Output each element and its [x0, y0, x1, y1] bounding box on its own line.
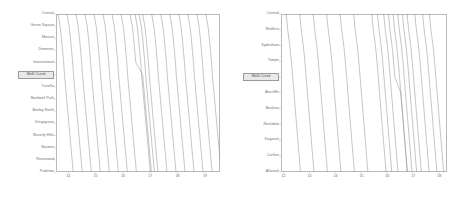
x-tick-label: 17: [411, 175, 415, 179]
x-tick-label: 12: [282, 175, 286, 179]
service-line: [139, 14, 154, 172]
service-line: [188, 14, 203, 172]
service-line: [161, 14, 176, 172]
service-line: [286, 14, 300, 172]
x-tick-label: 19: [203, 175, 207, 179]
service-line: [327, 14, 341, 172]
service-line: [170, 14, 185, 172]
x-tick-label: 14: [333, 175, 337, 179]
service-line: [67, 14, 82, 172]
service-line: [206, 14, 221, 172]
service-line: [300, 14, 314, 172]
service-line: [313, 14, 327, 172]
service-line: [372, 14, 386, 172]
service-line: [179, 14, 194, 172]
left-chart-panel: CentralGreen SquareMascotDomesticInterna…: [0, 0, 227, 199]
service-line: [112, 14, 127, 172]
service-line: [76, 14, 91, 172]
x-tick-label: 17: [148, 175, 152, 179]
right-chart-panel: CentralRedfernSydenhamTempeWolli CreekAr…: [228, 0, 455, 199]
x-tick-label: 15: [94, 175, 98, 179]
service-line: [85, 14, 100, 172]
service-line: [121, 14, 136, 172]
service-line: [407, 14, 421, 172]
service-line: [152, 14, 167, 172]
x-tick-label: 13: [308, 175, 312, 179]
service-line: [423, 14, 437, 172]
x-tick-label: 15: [359, 175, 363, 179]
x-tick-label: 18: [176, 175, 180, 179]
service-line: [415, 14, 429, 172]
service-line: [388, 14, 407, 172]
service-line: [103, 14, 118, 172]
service-line: [58, 14, 73, 172]
service-line: [340, 14, 354, 172]
left-series-lines: [0, 0, 227, 199]
right-series-lines: [228, 0, 455, 199]
x-tick-label: 16: [121, 175, 125, 179]
x-tick-label: 14: [66, 175, 70, 179]
x-tick-label: 18: [437, 175, 441, 179]
x-tick-label: 16: [385, 175, 389, 179]
chart-board: CentralGreen SquareMascotDomesticInterna…: [0, 0, 455, 199]
service-line: [143, 14, 158, 172]
service-line: [354, 14, 368, 172]
service-line: [429, 14, 443, 172]
service-line: [197, 14, 212, 172]
service-line: [94, 14, 109, 172]
